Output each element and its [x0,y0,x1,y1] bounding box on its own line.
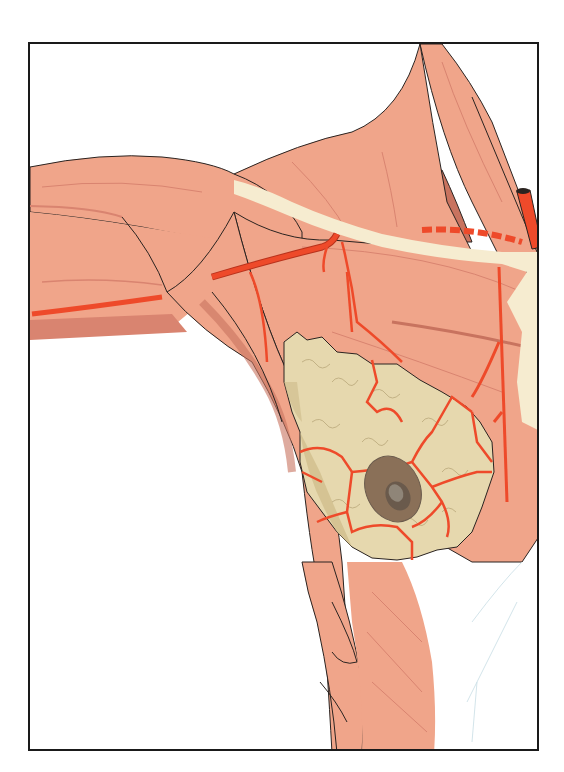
sternum-sketch [467,562,522,742]
anatomy-illustration [28,42,539,751]
serratus-anterior [302,562,435,751]
illustration-frame: Anatomical illustration: arterial blood … [28,42,539,751]
